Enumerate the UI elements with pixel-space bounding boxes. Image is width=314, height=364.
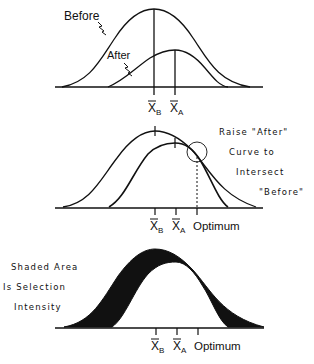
optimum-tick-label: Optimum [194, 340, 241, 352]
panel-raise-after: XB XA Optimum Raise "After" Curve to Int… [55, 126, 304, 235]
panel-shaded-selection: XB XA Optimum Shaded Area Is Selection I… [3, 249, 264, 355]
before-pointer-arrow-icon [98, 22, 106, 35]
after-label: After [107, 49, 131, 61]
mean-after-tick-label: XA [170, 101, 184, 117]
selection-intensity-diagram: Before After XB XA XB XA Optimum Raise "… [0, 0, 314, 364]
annotation-line-3: Intersect [236, 167, 284, 177]
mean-before-tick-label: XB [148, 101, 161, 117]
mean-after-tick-label: XA [173, 339, 187, 355]
annotation-line-1: Shaded Area [11, 262, 78, 272]
annotation-line-1: Raise "After" [219, 127, 288, 137]
mean-after-tick-label: XA [172, 219, 186, 235]
panel-before-after: Before After XB XA [55, 9, 263, 117]
after-pointer-arrow-icon [124, 63, 132, 76]
mean-before-tick-label: XB [151, 339, 164, 355]
annotation-line-4: "Before" [259, 187, 304, 197]
before-label: Before [64, 9, 100, 23]
optimum-tick-label: Optimum [193, 220, 240, 232]
annotation-line-3: Intensity [14, 302, 62, 312]
mean-before-tick-label: XB [150, 219, 163, 235]
annotation-line-2: Curve to [229, 147, 275, 157]
after-curve [109, 143, 228, 207]
annotation-line-2: Is Selection [3, 282, 66, 292]
before-curve [63, 131, 256, 207]
shaded-selection-area [64, 249, 264, 327]
